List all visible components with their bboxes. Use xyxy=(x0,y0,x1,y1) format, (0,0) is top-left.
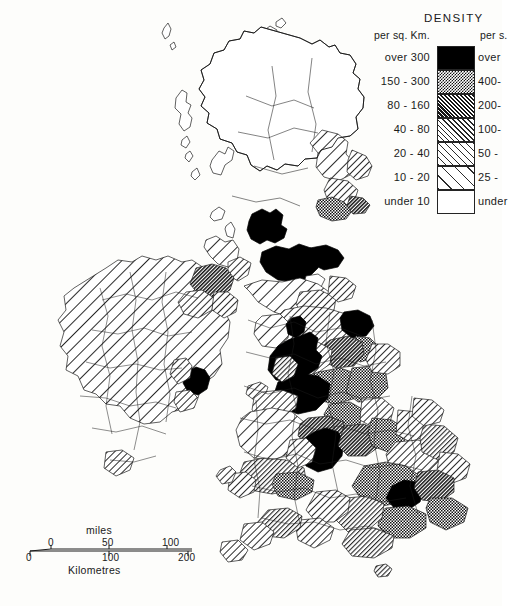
legend-row-under-10: under 10 under xyxy=(372,190,502,214)
area-clydeside xyxy=(247,209,287,244)
scale-bar: miles Kilometres 0 50 100 0 100 200 xyxy=(26,524,216,576)
legend-row-10-20: 10 - 20 25 - xyxy=(372,166,502,190)
legend-swatch-blank xyxy=(437,190,475,214)
legend-label-metric: 150 - 300 xyxy=(381,75,430,87)
legend-label-imperial: under xyxy=(478,195,508,207)
legend-label-metric: 80 - 160 xyxy=(387,99,430,111)
legend-swatch-checker-dense xyxy=(437,70,475,94)
legend-label-metric: over 300 xyxy=(385,51,430,63)
legend-row-80-160: 80 - 160 200- xyxy=(372,94,502,118)
legend-label-metric: under 10 xyxy=(384,195,430,207)
legend-title: DENSITY xyxy=(424,12,484,24)
legend-label-imperial: 100- xyxy=(478,123,501,135)
legend-label-imperial: 25 - xyxy=(478,171,498,183)
legend: DENSITY per sq. Km. per s. over 300 over… xyxy=(372,12,502,212)
legend-label-imperial: 200- xyxy=(478,99,501,111)
legend-label-metric: 20 - 40 xyxy=(394,147,430,159)
legend-row-over-300: over 300 over xyxy=(372,46,502,70)
legend-row-150-300: 150 - 300 400- xyxy=(372,70,502,94)
legend-swatch-hatch-sparse xyxy=(437,166,475,190)
legend-row-40-80: 40 - 80 100- xyxy=(372,118,502,142)
scale-bar-graphic xyxy=(26,524,216,576)
legend-swatch-hatch-medium xyxy=(437,118,475,142)
legend-label-imperial: 400- xyxy=(478,75,501,87)
legend-label-metric: 40 - 80 xyxy=(394,123,430,135)
legend-label-imperial: over xyxy=(478,51,501,63)
legend-unit-left: per sq. Km. xyxy=(374,29,430,41)
legend-label-imperial: 50 - xyxy=(478,147,498,159)
legend-swatch-solid-black xyxy=(437,46,475,70)
legend-swatch-hatch-heavy xyxy=(437,94,475,118)
legend-label-metric: 10 - 20 xyxy=(394,171,430,183)
legend-swatch-hatch-light xyxy=(437,142,475,166)
legend-row-20-40: 20 - 40 50 - xyxy=(372,142,502,166)
legend-unit-right: per s. xyxy=(480,29,507,41)
